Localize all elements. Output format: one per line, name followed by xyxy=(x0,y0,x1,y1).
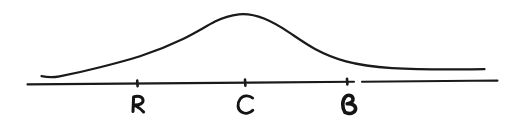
baseline-axis xyxy=(28,81,498,85)
tick-label-a-text: A xyxy=(138,97,149,116)
axis-segment-right xyxy=(362,81,498,82)
distribution-sketch-figure: A C B xyxy=(0,0,526,128)
axis-segment-left xyxy=(28,82,355,85)
bell-curve-path xyxy=(42,14,485,77)
bell-curve xyxy=(42,14,485,77)
sketch-canvas: A C B xyxy=(0,0,526,128)
tick-label-c-text: C xyxy=(246,97,257,116)
tick-label-b-text: B xyxy=(349,97,360,116)
